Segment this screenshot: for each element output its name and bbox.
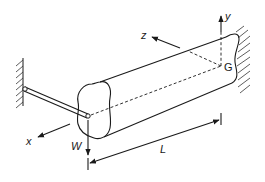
y-axis-label: y bbox=[224, 10, 232, 22]
left-wall-support bbox=[16, 58, 23, 108]
left-cross-section bbox=[77, 82, 110, 139]
length-label: L bbox=[160, 143, 166, 155]
length-dimension: L bbox=[88, 113, 221, 170]
beam-body bbox=[77, 34, 239, 139]
x-axis-label: x bbox=[25, 135, 32, 147]
centroid-label: G bbox=[224, 61, 233, 73]
x-axis-arrow: x bbox=[25, 124, 70, 147]
beam-diagram: y z G x W L bbox=[0, 0, 265, 182]
y-axis-arrow: y bbox=[221, 10, 232, 32]
z-axis-arrow: z bbox=[140, 29, 180, 48]
z-axis-label: z bbox=[140, 29, 147, 41]
load-arrow: W bbox=[71, 120, 88, 155]
z-axis-dashed bbox=[188, 51, 221, 66]
load-label: W bbox=[71, 140, 83, 152]
